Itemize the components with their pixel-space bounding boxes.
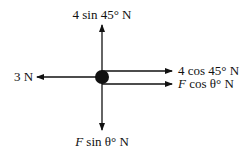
label-up: 4 sin 45° N [72, 7, 132, 22]
free-body-diagram: 4 sin 45° N 3 N 4 cos 45° N F cos θ° N F… [0, 0, 242, 152]
label-right-lower: F cos θ° N [177, 76, 234, 91]
particle-dot [95, 70, 109, 84]
label-down: F sin θ° N [74, 134, 129, 149]
label-right-lower-text: cos θ° N [186, 76, 235, 91]
label-down-text: sin θ° N [83, 134, 129, 149]
label-left: 3 N [14, 69, 34, 84]
